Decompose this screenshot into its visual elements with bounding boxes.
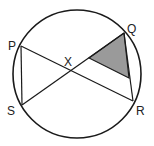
label-x: X	[64, 55, 72, 69]
shaded-triangle	[89, 33, 129, 78]
label-s: S	[7, 104, 15, 118]
chord-ps	[21, 46, 22, 105]
label-q: Q	[127, 22, 136, 36]
geometry-diagram: P Q R S X	[0, 0, 154, 146]
label-p: P	[8, 39, 16, 53]
label-r: R	[136, 104, 145, 118]
chord-sq	[22, 33, 124, 105]
